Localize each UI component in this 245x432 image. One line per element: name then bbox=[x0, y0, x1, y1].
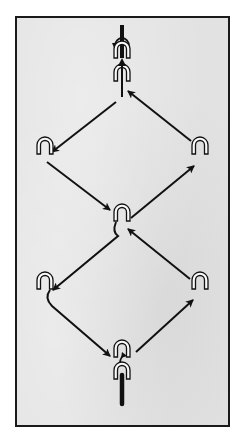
arch-icon bbox=[37, 272, 53, 289]
node-lower-right bbox=[192, 272, 208, 289]
arch-icon bbox=[37, 137, 53, 154]
edge-center-to-lower-left bbox=[53, 222, 118, 290]
flow-diagram bbox=[0, 0, 245, 432]
node-bottom-stack bbox=[114, 340, 130, 404]
node-upper-left bbox=[37, 137, 53, 154]
edge-bottom-to-lower-right bbox=[136, 300, 193, 352]
edge-upper-right-to-top bbox=[128, 91, 191, 141]
arch-icon bbox=[192, 137, 208, 154]
node-top-stack bbox=[112, 25, 130, 97]
edge-top-to-upper-left bbox=[52, 102, 116, 152]
arch-icon bbox=[192, 272, 208, 289]
arch-icon bbox=[114, 204, 130, 221]
edge-lower-right-to-center bbox=[128, 229, 190, 279]
node-lower-left bbox=[37, 272, 53, 289]
node-upper-right bbox=[192, 137, 208, 154]
edge-center-to-upper-right bbox=[131, 166, 194, 218]
edge-upper-left-to-center bbox=[47, 162, 110, 210]
edges bbox=[47, 91, 194, 356]
edge-lower-left-to-bottom bbox=[47, 290, 110, 356]
node-center bbox=[114, 204, 130, 221]
